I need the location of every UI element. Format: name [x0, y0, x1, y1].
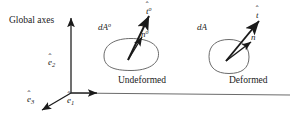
basis-e1-subscript: 1 [71, 99, 74, 106]
vector-accent-icon: ˆ [256, 6, 259, 14]
basis-e3-subscript: 3 [31, 98, 34, 105]
continuum-traction-figure: Global axes ˆe2 ˆe3 ˆe1 dAo ˆto ˆno Unde… [0, 0, 293, 118]
basis-vector-e2-label: ˆe2 [48, 58, 55, 69]
undeformed-area-label: dAo [98, 22, 111, 32]
undeformed-normal-label: ˆno [141, 29, 149, 39]
hat-accent-icon: ˆ [142, 25, 145, 34]
global-axes-label: Global axes [9, 16, 54, 26]
deformed-area-label: dA [197, 23, 207, 32]
hat-accent-icon: ˆ [28, 90, 31, 99]
basis-vector-e3-label: ˆe3 [27, 95, 34, 106]
undeformed-normal-arrow [128, 37, 142, 60]
hat-accent-icon: ˆ [49, 53, 52, 62]
deformed-traction-label: ˆt [256, 11, 259, 20]
undeformed-caption: Undeformed [118, 76, 166, 86]
hat-accent-icon: ˆ [68, 91, 71, 100]
undeformed-traction-label: ˆto [146, 6, 152, 16]
deformed-area-symbol: dA [197, 22, 207, 32]
axis-baseline-line [71, 93, 290, 95]
undeformed-area-symbol: dA [98, 22, 108, 32]
deformed-normal-label: ˆn [251, 33, 256, 42]
basis-vector-e1-label: ˆe1 [67, 96, 74, 107]
vector-accent-icon: ˆ [146, 2, 149, 10]
deformed-caption: Deformed [229, 76, 268, 86]
undeformed-area-superscript: o [108, 22, 111, 28]
hat-accent-icon: ˆ [252, 28, 255, 37]
basis-e2-subscript: 2 [52, 61, 55, 68]
